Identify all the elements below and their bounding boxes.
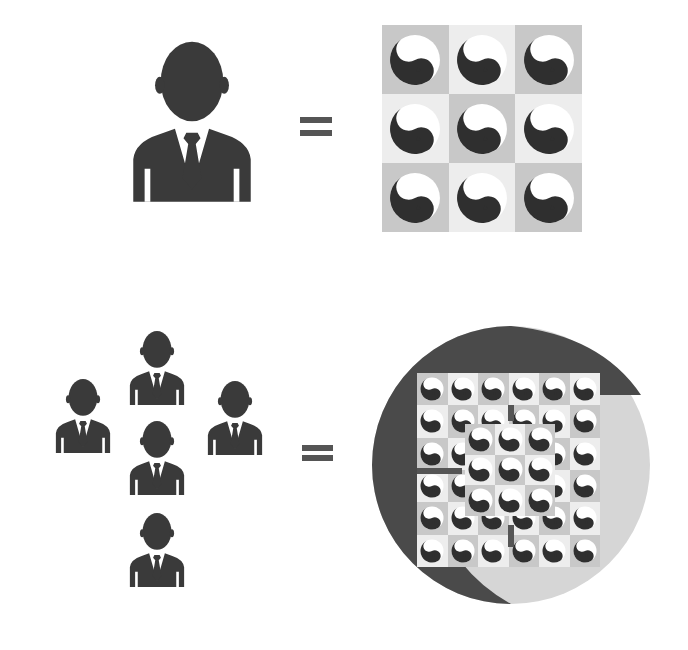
equals-sign-bottom bbox=[302, 445, 333, 462]
yin-yang-icon bbox=[449, 25, 516, 94]
yin-yang-icon bbox=[449, 163, 516, 232]
group-person-bottom bbox=[122, 510, 192, 594]
equals-sign-top bbox=[300, 117, 332, 137]
yin-yang-grid-3x3 bbox=[382, 25, 582, 232]
divider-mark bbox=[508, 405, 514, 421]
yin-yang-icon bbox=[515, 163, 582, 232]
single-person-icon bbox=[112, 36, 272, 216]
yin-yang-icon bbox=[382, 163, 449, 232]
group-person-right bbox=[200, 378, 270, 462]
yin-yang-icon bbox=[382, 94, 449, 163]
group-person-left bbox=[48, 376, 118, 460]
yin-yang-icon bbox=[382, 25, 449, 94]
yin-yang-icon bbox=[449, 94, 516, 163]
group-person-center bbox=[122, 418, 192, 502]
divider-mark bbox=[417, 468, 462, 474]
yin-yang-icon bbox=[515, 94, 582, 163]
group-person-top bbox=[122, 328, 192, 412]
yin-yang-icon bbox=[515, 25, 582, 94]
divider-mark bbox=[508, 525, 514, 547]
yin-yang-grid-inner-3x3 bbox=[465, 424, 555, 516]
